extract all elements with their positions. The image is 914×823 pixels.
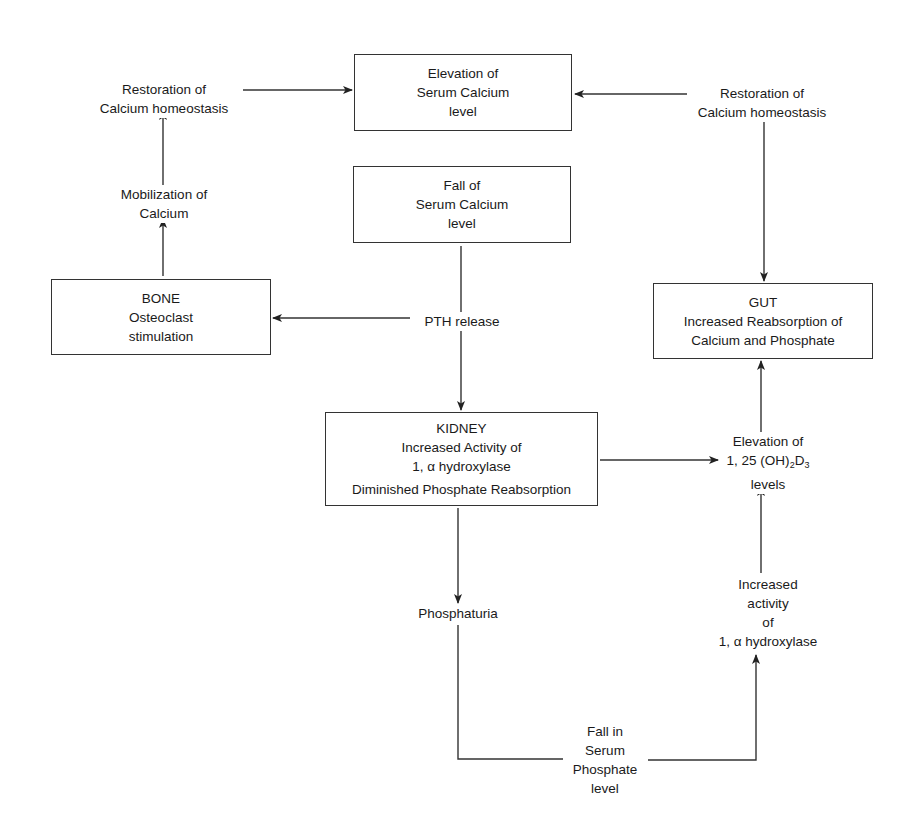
bone-box: BONE Osteoclast stimulation <box>51 279 271 355</box>
node-text: Increased Activity of <box>401 438 521 457</box>
line-phosphaturia-to-fall-phosphate <box>458 625 563 759</box>
node-text: 1, α hydroxylase <box>412 457 511 476</box>
node-text: Calcium homeostasis <box>698 103 826 122</box>
node-text: Calcium homeostasis <box>100 99 228 118</box>
node-text: PTH release <box>424 312 499 331</box>
node-text: level <box>448 214 476 233</box>
elevation-serum-calcium-box: Elevation of Serum Calcium level <box>354 54 572 131</box>
restoration-left-label: Restoration of Calcium homeostasis <box>100 80 228 118</box>
fall-serum-calcium-box: Fall of Serum Calcium level <box>353 166 571 243</box>
elevation-vitd-label: Elevation of 1, 25 (OH)2D3 levels <box>727 432 810 494</box>
node-text: of <box>719 613 818 632</box>
node-text: Mobilization of <box>121 185 207 204</box>
gut-box: GUT Increased Reabsorption of Calcium an… <box>653 283 873 359</box>
node-text: Fall in <box>573 722 638 741</box>
fall-serum-phosphate-label: Fall in Serum Phosphate level <box>573 722 638 798</box>
node-text: Calcium <box>121 204 207 223</box>
node-text: Serum Calcium <box>416 195 508 214</box>
node-text: Phosphaturia <box>418 604 498 623</box>
node-text: Serum <box>573 741 638 760</box>
kidney-box: KIDNEY Increased Activity of 1, α hydrox… <box>325 412 598 506</box>
restoration-right-label: Restoration of Calcium homeostasis <box>698 84 826 122</box>
pth-release-label: PTH release <box>424 312 499 331</box>
node-title: GUT <box>749 293 778 312</box>
node-text: Calcium and Phosphate <box>691 331 834 350</box>
node-text: Restoration of <box>698 84 826 103</box>
increased-activity-label: Increased activity of 1, α hydroxylase <box>719 575 818 651</box>
phosphaturia-label: Phosphaturia <box>418 604 498 623</box>
node-text: Increased Reabsorption of <box>684 312 842 331</box>
node-text: stimulation <box>129 327 194 346</box>
arrow-fall-phosphate-to-activity <box>648 655 756 760</box>
node-text: Serum Calcium <box>417 83 509 102</box>
node-text: Elevation of <box>428 64 499 83</box>
node-text: Restoration of <box>100 80 228 99</box>
node-text: Phosphate <box>573 760 638 779</box>
node-text: levels <box>727 475 810 494</box>
vitd-formula: 1, 25 (OH)2D3 <box>727 451 810 475</box>
node-text: level <box>573 779 638 798</box>
node-title: KIDNEY <box>436 419 486 438</box>
node-text: Fall of <box>444 176 481 195</box>
node-text: Elevation of <box>727 432 810 451</box>
node-text: level <box>449 102 477 121</box>
node-title: BONE <box>142 289 180 308</box>
node-text: Increased <box>719 575 818 594</box>
node-text: activity <box>719 594 818 613</box>
node-text: Osteoclast <box>129 308 193 327</box>
formula-subscript: 3 <box>804 460 809 470</box>
node-text: Diminished Phosphate Reabsorption <box>352 480 571 499</box>
node-text: 1, α hydroxylase <box>719 632 818 651</box>
mobilization-label: Mobilization of Calcium <box>121 185 207 223</box>
formula-part: D <box>795 453 805 468</box>
formula-part: 1, 25 (OH) <box>727 453 790 468</box>
